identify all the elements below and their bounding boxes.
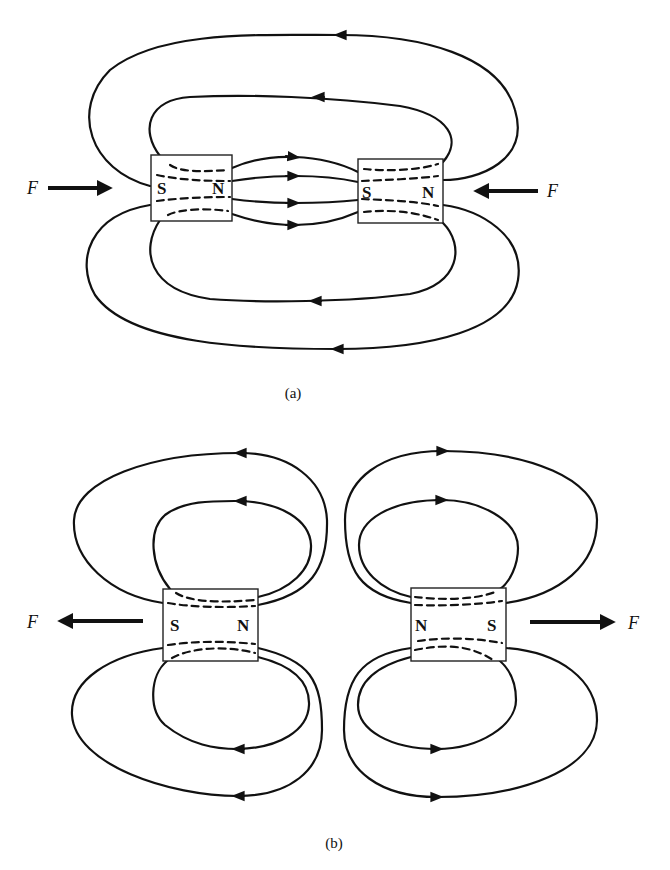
pole-label: N bbox=[422, 183, 435, 202]
force-label-a-left: F bbox=[26, 178, 39, 198]
magnet-a-left: S N bbox=[151, 155, 232, 221]
field-line-b-right-outer-top bbox=[345, 451, 597, 603]
arrow-icon bbox=[286, 156, 294, 157]
magnet-b-right: N S bbox=[411, 588, 506, 661]
field-line-b-right-inner-bottom bbox=[358, 657, 516, 749]
field-line-a-inner-top bbox=[150, 96, 452, 162]
field-line-a-gap-2 bbox=[232, 176, 358, 182]
pole-label: N bbox=[212, 179, 225, 198]
pole-label: S bbox=[157, 179, 166, 198]
field-line-a-outer-bottom bbox=[87, 205, 519, 349]
caption-b: (b) bbox=[325, 835, 343, 852]
force-label-a-right: F bbox=[546, 181, 559, 201]
panel-a: S N S N F F (a) bbox=[26, 35, 559, 402]
pole-label: N bbox=[237, 616, 250, 635]
magnet-a-right: S N bbox=[358, 159, 443, 223]
field-line-a-gap-3 bbox=[232, 199, 358, 203]
field-line-b-right-outer-bottom bbox=[344, 648, 597, 797]
magnet-b-left: S N bbox=[163, 589, 258, 661]
field-line-b-left-inner-top bbox=[154, 501, 312, 597]
field-line-b-left-outer-bottom bbox=[72, 648, 322, 796]
pole-label: S bbox=[487, 616, 496, 635]
field-line-a-inner-bottom bbox=[150, 220, 455, 301]
panel-b: S N N S F F (b) bbox=[26, 451, 640, 852]
field-line-b-left-outer-top bbox=[74, 453, 327, 605]
pole-label: S bbox=[170, 616, 179, 635]
magnet-field-diagram: S N S N F F (a) bbox=[0, 0, 670, 870]
field-line-b-right-inner-top bbox=[359, 500, 518, 597]
pole-label: S bbox=[362, 183, 371, 202]
pole-label: N bbox=[415, 616, 428, 635]
caption-a: (a) bbox=[285, 385, 302, 402]
field-line-a-gap-1 bbox=[232, 157, 358, 172]
force-label-b-right: F bbox=[627, 613, 640, 633]
force-label-b-left: F bbox=[26, 612, 39, 632]
field-line-b-left-inner-bottom bbox=[153, 657, 309, 749]
field-line-a-gap-4 bbox=[232, 212, 358, 225]
